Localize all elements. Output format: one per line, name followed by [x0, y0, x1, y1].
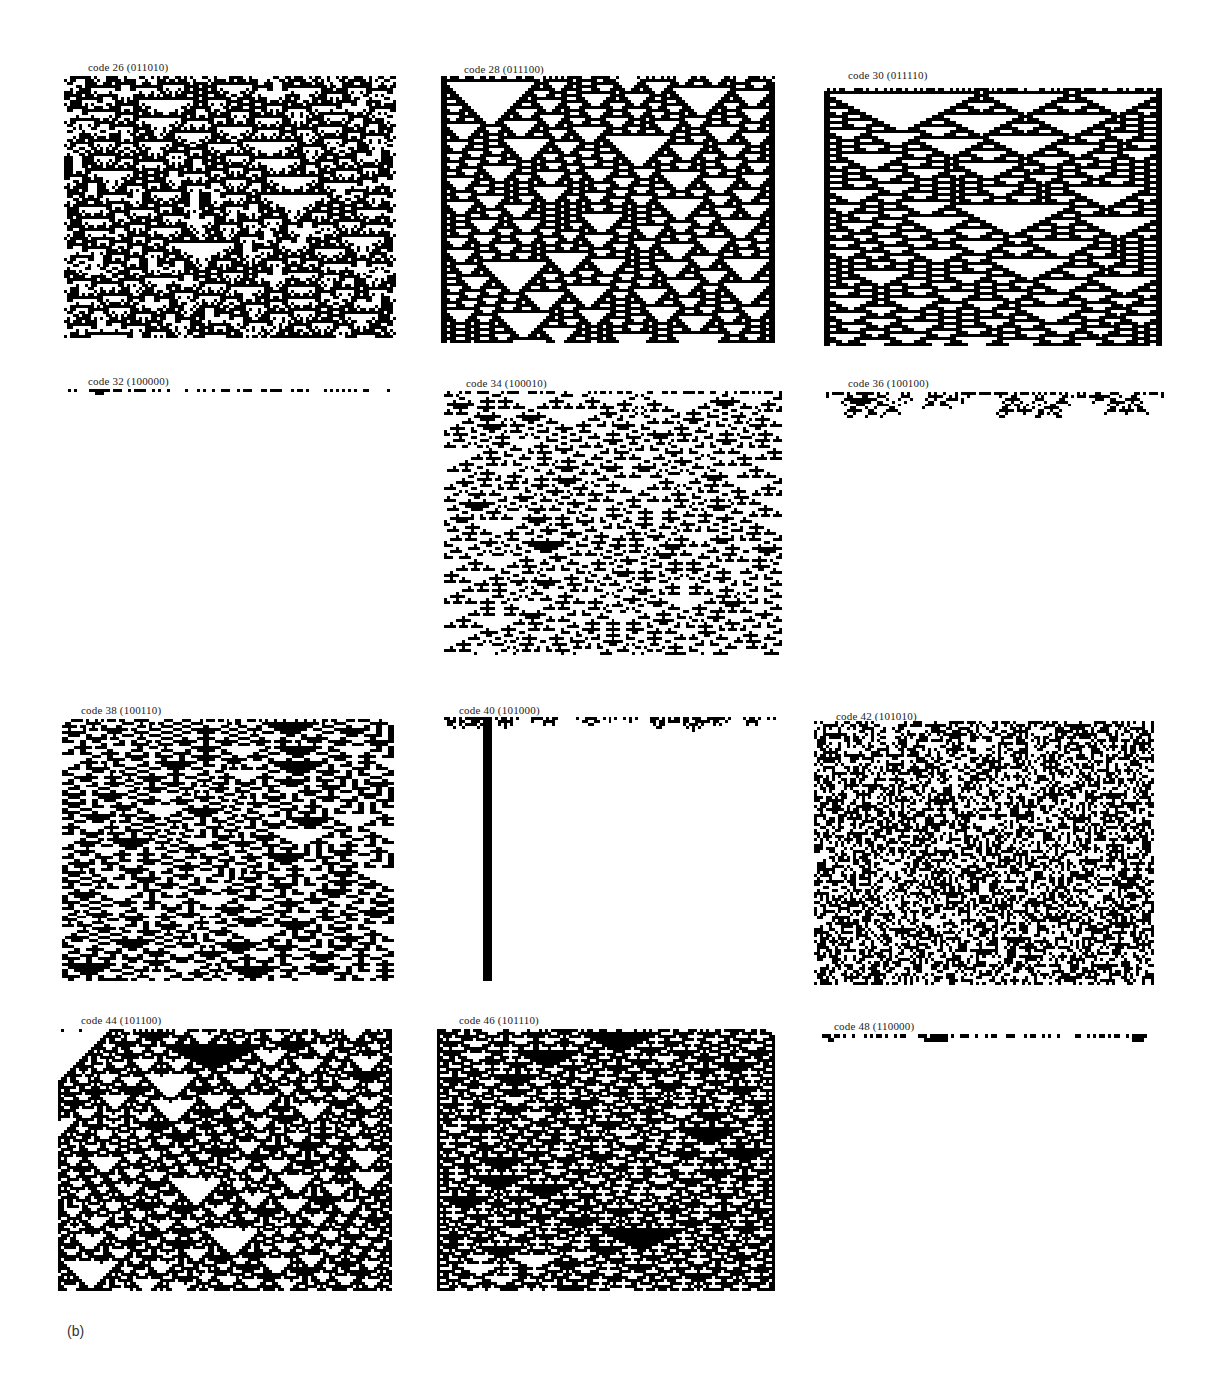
panel-label-code-48: code 48 (110000)	[834, 1020, 914, 1032]
automaton-pattern-code-28	[441, 76, 775, 343]
panel-label-code-32: code 32 (100000)	[88, 375, 169, 387]
panel-label-code-38: code 38 (100110)	[81, 704, 161, 716]
automaton-pattern-code-36	[826, 392, 1164, 418]
figure-label: (b)	[67, 1323, 84, 1339]
automaton-pattern-code-44	[58, 1029, 392, 1291]
panel-label-code-30: code 30 (011110)	[848, 69, 928, 81]
panel-label-code-26: code 26 (011010)	[88, 61, 168, 73]
automaton-pattern-code-40	[444, 717, 776, 981]
automaton-pattern-code-26	[64, 76, 396, 338]
automaton-pattern-code-42	[814, 721, 1154, 985]
panel-label-code-44: code 44 (101100)	[81, 1014, 161, 1026]
panel-label-code-34: code 34 (100010)	[466, 377, 547, 389]
automaton-pattern-code-30	[824, 88, 1162, 346]
panel-label-code-46: code 46 (101110)	[459, 1014, 539, 1026]
panel-label-code-36: code 36 (100100)	[848, 377, 929, 389]
panel-label-code-40: code 40 (101000)	[459, 704, 540, 716]
panel-label-code-28: code 28 (011100)	[464, 63, 544, 75]
automaton-pattern-code-34	[444, 391, 782, 655]
automaton-pattern-code-46	[437, 1029, 775, 1291]
automaton-pattern-code-38	[62, 719, 394, 981]
automaton-pattern-code-32	[68, 389, 396, 395]
automaton-pattern-code-48	[816, 1034, 1150, 1042]
